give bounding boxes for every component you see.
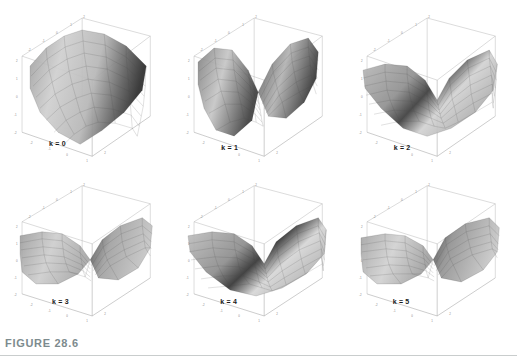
svg-text:-2: -2	[200, 215, 203, 219]
svg-text:1: 1	[188, 77, 190, 81]
surface-plot-grid: -2-1 01 2 21 0-1 -2 -2-1 01 2	[0, 4, 517, 334]
svg-text:2: 2	[277, 151, 279, 155]
svg-text:2: 2	[83, 183, 85, 187]
surface-plot-panel-3: -2-1 01 2 21 0-1 -2 -2-1 01 2	[0, 169, 172, 334]
surface-mesh-5	[361, 218, 499, 284]
svg-text:-2: -2	[186, 293, 189, 297]
svg-text:2: 2	[255, 183, 257, 187]
svg-text:0: 0	[56, 198, 58, 202]
surface-plot-panel-1: -2-1 01 2 21 0-1 -2 -2-1 01 2	[172, 4, 344, 169]
svg-text:-2: -2	[14, 293, 17, 297]
panel-label-k3: k = 3	[52, 298, 69, 305]
figure-caption-block: FIGURE 28.6	[0, 336, 517, 358]
svg-text:0: 0	[238, 314, 240, 318]
svg-text:0: 0	[188, 259, 190, 263]
svg-text:2: 2	[277, 312, 279, 316]
svg-text:2: 2	[449, 151, 451, 155]
svg-text:-2: -2	[375, 303, 378, 307]
surface-plot-panel-2: -2-1 01 2 21 0-1 -2 -2-1 01 2	[345, 4, 517, 169]
svg-text:1: 1	[242, 23, 244, 27]
svg-text:-2: -2	[359, 131, 362, 135]
surface-plot-svg-2: -2-1 01 2 21 0-1 -2 -2-1 01 2	[345, 4, 517, 169]
svg-text:2: 2	[428, 183, 430, 187]
svg-text:1: 1	[258, 319, 260, 323]
svg-text:1: 1	[86, 319, 88, 323]
svg-text:0: 0	[16, 95, 18, 99]
svg-text:0: 0	[238, 153, 240, 157]
panel-label-k5: k = 5	[393, 298, 410, 305]
svg-text:-2: -2	[202, 141, 205, 145]
svg-text:-2: -2	[202, 303, 205, 307]
surface-plot-panel-0: -2-1 01 2 21 0-1 -2 -2-1 01 2	[0, 4, 172, 169]
surface-mesh-0	[30, 30, 146, 144]
svg-text:-1: -1	[14, 276, 17, 280]
figure-caption-text: FIGURE 28.6	[5, 337, 79, 349]
svg-text:1: 1	[16, 77, 18, 81]
svg-text:0: 0	[411, 153, 413, 157]
svg-text:-2: -2	[359, 293, 362, 297]
svg-text:-2: -2	[373, 48, 376, 52]
svg-text:0: 0	[401, 31, 403, 35]
panel-label-k0: k = 0	[49, 140, 66, 147]
svg-text:-2: -2	[28, 215, 31, 219]
surface-mesh-4	[188, 218, 326, 296]
svg-text:1: 1	[86, 159, 88, 163]
surface-plot-svg-0: -2-1 01 2 21 0-1 -2 -2-1 01 2	[0, 4, 172, 169]
figure-container: -2-1 01 2 21 0-1 -2 -2-1 01 2	[0, 0, 517, 358]
svg-text:-1: -1	[359, 276, 362, 280]
svg-text:0: 0	[228, 198, 230, 202]
svg-text:0: 0	[66, 153, 68, 157]
svg-text:-1: -1	[186, 113, 189, 117]
svg-text:2: 2	[255, 15, 257, 19]
svg-text:-1: -1	[393, 309, 396, 313]
caption-divider	[0, 355, 517, 356]
svg-text:1: 1	[431, 159, 433, 163]
svg-text:-1: -1	[186, 276, 189, 280]
panel-label-k4: k = 4	[220, 298, 237, 305]
panel-label-k1: k = 1	[221, 144, 238, 151]
svg-text:0: 0	[188, 95, 190, 99]
svg-text:-2: -2	[14, 131, 17, 135]
svg-text:2: 2	[16, 225, 18, 229]
svg-text:0: 0	[228, 31, 230, 35]
svg-text:1: 1	[70, 23, 72, 27]
svg-text:-1: -1	[48, 147, 51, 151]
svg-text:2: 2	[428, 15, 430, 19]
svg-text:1: 1	[431, 319, 433, 323]
surface-plot-svg-1: -2-1 01 2 21 0-1 -2 -2-1 01 2	[172, 4, 344, 169]
svg-text:-1: -1	[220, 309, 223, 313]
svg-text:2: 2	[83, 15, 85, 19]
surface-plot-svg-5: -2-1 01 2 21 0-1 -2 -2-1 01 2	[345, 169, 517, 334]
svg-text:-2: -2	[30, 303, 33, 307]
panel-label-k2: k = 2	[394, 144, 411, 151]
surface-plot-svg-3: -2-1 01 2 21 0-1 -2 -2-1 01 2	[0, 169, 172, 334]
surface-mesh-3	[20, 218, 152, 284]
svg-text:-2: -2	[30, 141, 33, 145]
svg-text:2: 2	[449, 312, 451, 316]
svg-text:-1: -1	[214, 39, 217, 43]
svg-text:0: 0	[401, 198, 403, 202]
svg-text:-1: -1	[14, 113, 17, 117]
svg-text:0: 0	[361, 95, 363, 99]
svg-text:0: 0	[411, 314, 413, 318]
svg-text:-1: -1	[214, 206, 217, 210]
surface-plot-svg-4: -2-1 01 2 21 0-1 -2 -2-1 01 2	[172, 169, 344, 334]
svg-text:2: 2	[16, 59, 18, 63]
svg-text:1: 1	[361, 77, 363, 81]
surface-mesh-1	[198, 38, 318, 136]
svg-text:2: 2	[361, 225, 363, 229]
svg-text:-1: -1	[42, 39, 45, 43]
svg-text:1: 1	[258, 159, 260, 163]
svg-text:0: 0	[16, 259, 18, 263]
svg-text:-1: -1	[42, 206, 45, 210]
svg-text:0: 0	[66, 314, 68, 318]
svg-text:2: 2	[188, 225, 190, 229]
svg-text:-2: -2	[186, 131, 189, 135]
svg-text:-1: -1	[48, 309, 51, 313]
svg-text:-2: -2	[28, 48, 31, 52]
svg-text:-1: -1	[359, 113, 362, 117]
svg-text:-2: -2	[373, 215, 376, 219]
surface-plot-panel-5: -2-1 01 2 21 0-1 -2 -2-1 01 2	[345, 169, 517, 334]
surface-mesh-2	[363, 50, 497, 136]
svg-text:0: 0	[56, 31, 58, 35]
